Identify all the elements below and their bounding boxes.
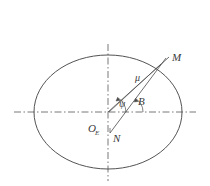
- label-origin-subscript: E: [94, 129, 100, 137]
- label-angle-b: B: [138, 95, 145, 107]
- label-vector-mu: μ: [134, 72, 140, 83]
- label-point-m: M: [171, 51, 182, 63]
- label-angle-psi: ψ: [119, 98, 126, 109]
- label-point-n: N: [112, 132, 121, 144]
- diagram-canvas: M N O E μ ψ B: [0, 0, 210, 186]
- ellipse-angle-diagram: M N O E μ ψ B: [0, 0, 210, 186]
